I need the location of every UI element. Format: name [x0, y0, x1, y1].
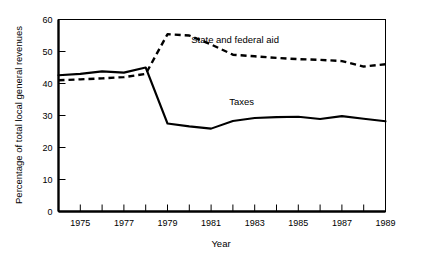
y-tick-label: 0 [47, 207, 52, 217]
x-tick-label: 1989 [375, 218, 395, 228]
y-tick-label: 50 [42, 47, 52, 57]
y-tick-label: 40 [42, 79, 52, 89]
y-axis-title: Percentage of total local general revenu… [13, 26, 24, 204]
y-tick-label: 20 [42, 143, 52, 153]
y-tick-label: 30 [42, 111, 52, 121]
x-tick-label: 1975 [70, 218, 90, 228]
x-axis-title: Year [211, 238, 230, 249]
x-tick-label: 1987 [332, 218, 352, 228]
x-tick-label: 1983 [245, 218, 265, 228]
chart-container: 0102030405060 19751977197919811983198519… [0, 0, 421, 261]
x-tick-label: 1977 [114, 218, 134, 228]
y-tick-label: 10 [42, 175, 52, 185]
x-tick-label: 1981 [201, 218, 221, 228]
series-label-taxes: Taxes [229, 96, 254, 107]
line-chart: 0102030405060 19751977197919811983198519… [0, 0, 421, 261]
x-tick-label: 1985 [288, 218, 308, 228]
y-tick-label: 60 [42, 15, 52, 25]
series-label-state-and-federal-aid: State and federal aid [191, 34, 279, 45]
x-tick-label: 1979 [157, 218, 177, 228]
